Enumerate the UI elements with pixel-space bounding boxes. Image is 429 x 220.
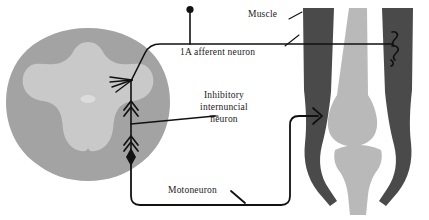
label-muscle: Muscle (248, 9, 277, 21)
label-inhibitory-internuncial-line1: Inhibitory (188, 90, 260, 102)
label-1a-afferent-neuron: 1A afferent neuron (180, 47, 255, 59)
central-canal (81, 95, 96, 103)
femur-bone (328, 8, 377, 146)
leg-muscle-group (303, 8, 413, 215)
label-motoneuron: Motoneuron (168, 185, 217, 197)
label-inhibitory-internuncial-line2: internuncial (188, 102, 260, 114)
label-inhibitory-internuncial-line3: neuron (188, 114, 260, 126)
reflex-arc-figure: Muscle 1A afferent neuron Inhibitory int… (0, 0, 429, 220)
tibia-bone (334, 145, 382, 215)
afferent-cell-body (186, 6, 193, 13)
